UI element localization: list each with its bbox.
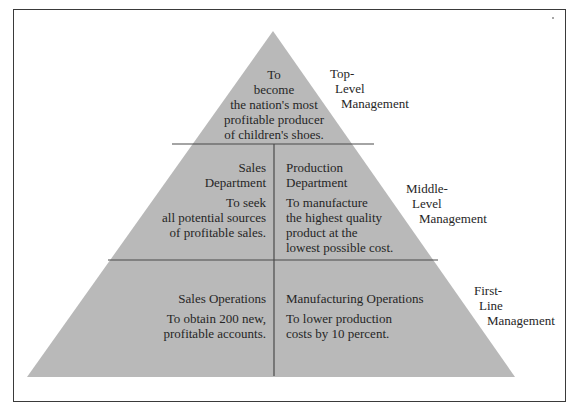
- sales-department-title: Sales: [110, 160, 266, 175]
- level-label-line: First-: [474, 283, 555, 298]
- sales-department-title: Department: [110, 175, 266, 190]
- top-goal-line: the nation's most: [198, 97, 350, 112]
- level-label-line: Middle-: [406, 181, 487, 196]
- level-label-line: Management: [330, 96, 409, 111]
- sales-department-cell: Sales Department To seek all potential s…: [110, 160, 266, 240]
- top-goal-line: To: [198, 67, 350, 82]
- sales-operations-title: Sales Operations: [100, 291, 266, 306]
- level-label-line: Line: [474, 298, 555, 313]
- production-department-goal: product at the: [286, 225, 446, 240]
- production-department-goal: lowest possible cost.: [286, 240, 446, 255]
- top-level-goal: To become the nation's most profitable p…: [198, 67, 350, 142]
- manufacturing-operations-cell: Manufacturing Operations To lower produc…: [286, 291, 466, 341]
- sales-operations-cell: Sales Operations To obtain 200 new, prof…: [100, 291, 266, 341]
- sales-department-goal: To seek: [110, 195, 266, 210]
- top-level-management-label: Top- Level Management: [330, 66, 409, 111]
- sales-operations-goal: profitable accounts.: [100, 326, 266, 341]
- production-department-title: Production: [286, 160, 446, 175]
- top-goal-line: become: [198, 82, 350, 97]
- sales-operations-goal: To obtain 200 new,: [100, 311, 266, 326]
- top-goal-line: profitable producer: [198, 112, 350, 127]
- first-line-management-label: First- Line Management: [474, 283, 555, 328]
- level-label-line: Level: [330, 81, 409, 96]
- middle-level-management-label: Middle- Level Management: [406, 181, 487, 226]
- manufacturing-operations-goal: costs by 10 percent.: [286, 326, 466, 341]
- level-label-line: Management: [406, 211, 487, 226]
- sales-department-goal: of profitable sales.: [110, 225, 266, 240]
- level-label-line: Top-: [330, 66, 409, 81]
- manufacturing-operations-goal: To lower production: [286, 311, 466, 326]
- sales-department-goal: all potential sources: [110, 210, 266, 225]
- top-goal-line: of children's shoes.: [198, 127, 350, 142]
- level-label-line: Management: [474, 313, 555, 328]
- level-label-line: Level: [406, 196, 487, 211]
- manufacturing-operations-title: Manufacturing Operations: [286, 291, 466, 306]
